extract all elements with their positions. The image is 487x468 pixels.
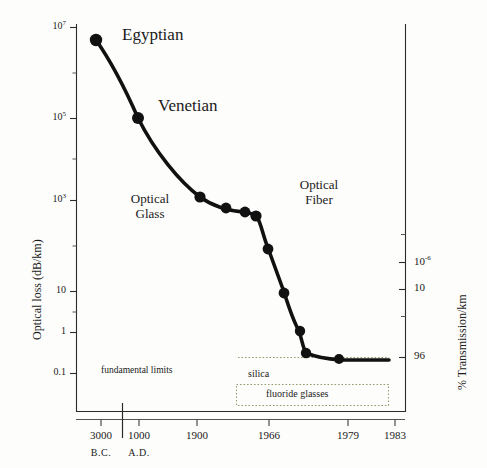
annotation-optical-fiber-line1: Optical bbox=[282, 178, 356, 193]
x-tick-sublabel: A.D. bbox=[114, 448, 164, 458]
right-axis-title: % Transmission/km bbox=[455, 294, 470, 390]
data-point bbox=[240, 207, 251, 218]
annotation-optical-glass-line1: Optical bbox=[113, 192, 187, 207]
annotation-optical-glass: Optical Glass bbox=[113, 192, 187, 222]
data-point bbox=[132, 112, 144, 124]
y-axis-title: Optical loss (dB/km) bbox=[30, 239, 45, 340]
chart-canvas bbox=[0, 0, 487, 468]
annotation-egyptian: Egyptian bbox=[122, 26, 183, 43]
x-tick-label: 1983 bbox=[370, 430, 420, 441]
data-point bbox=[295, 326, 305, 336]
y-tick-label: 105 bbox=[40, 111, 66, 122]
data-point bbox=[250, 210, 261, 221]
data-point bbox=[194, 191, 205, 202]
right-tick-label: 96 bbox=[414, 350, 425, 361]
annotation-optical-glass-line2: Glass bbox=[113, 207, 187, 222]
annotation-optical-fiber: Optical Fiber bbox=[282, 178, 356, 208]
y-tick-label: 103 bbox=[40, 193, 66, 204]
annotation-fluoride-glasses: fluoride glasses bbox=[266, 389, 329, 399]
left-minor-ticks bbox=[73, 73, 77, 312]
data-point bbox=[263, 244, 274, 255]
data-point bbox=[334, 354, 344, 364]
figure: 107 105 103 10 1 0.1 10-6 10 96 3000 B.C… bbox=[0, 0, 487, 468]
x-tick-label: 1966 bbox=[244, 430, 294, 441]
annotation-venetian: Venetian bbox=[158, 97, 217, 114]
data-point bbox=[221, 203, 232, 214]
right-ticks bbox=[399, 235, 406, 358]
x-tick-label: 1900 bbox=[172, 430, 222, 441]
annotation-optical-fiber-line2: Fiber bbox=[282, 193, 356, 208]
data-point bbox=[301, 348, 311, 358]
left-major-ticks bbox=[70, 28, 77, 374]
annotation-silica: silica bbox=[248, 369, 269, 379]
data-point bbox=[90, 34, 102, 46]
annotation-fundamental-limits: fundamental limits bbox=[101, 366, 173, 376]
data-point bbox=[279, 288, 290, 299]
y-tick-label: 0.1 bbox=[36, 367, 66, 377]
right-tick-label: 10-6 bbox=[414, 255, 431, 267]
right-tick-label: 10 bbox=[414, 282, 425, 293]
y-tick-label: 107 bbox=[40, 20, 66, 31]
x-tick-label: 1000 bbox=[114, 430, 164, 441]
x-tick-label: 1979 bbox=[323, 430, 373, 441]
